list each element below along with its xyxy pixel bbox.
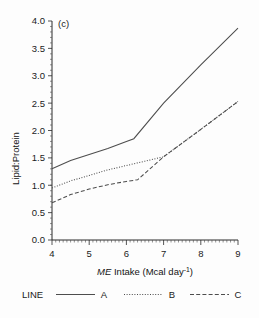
x-tick-label: 9	[235, 248, 240, 259]
x-axis-title-rest: Intake (Mcal day	[111, 266, 184, 277]
plot-svg: 0.00.51.01.52.02.53.03.54.0 456789 (c) L…	[0, 0, 259, 318]
legend-title: LINE	[22, 289, 43, 300]
x-tick-label: 4	[49, 248, 54, 259]
x-tick-label: 8	[198, 248, 203, 259]
y-tick-group: 0.00.51.01.52.02.53.03.54.0	[32, 15, 52, 245]
x-tick-label: 7	[161, 248, 166, 259]
x-tick-group: 456789	[49, 240, 240, 259]
y-tick-label: 2.5	[32, 98, 45, 109]
series-line-C	[52, 101, 238, 202]
figure-panel: 0.00.51.01.52.02.53.03.54.0 456789 (c) L…	[0, 0, 259, 318]
y-tick-label: 3.5	[32, 43, 45, 54]
legend-label-C: C	[235, 289, 242, 300]
y-axis-title: Lipid:Protein	[10, 132, 21, 185]
y-tick-label: 1.0	[32, 180, 45, 191]
y-tick-label: 1.5	[32, 152, 45, 163]
series-line-A	[52, 28, 238, 169]
x-tick-label: 6	[124, 248, 129, 259]
series-line-B	[52, 101, 238, 188]
legend-label-A: A	[101, 289, 108, 300]
series-group	[52, 28, 238, 203]
x-axis-title: ME Intake (Mcal day-1)	[97, 266, 193, 278]
y-tick-label: 0.5	[32, 207, 45, 218]
x-tick-label: 5	[87, 248, 92, 259]
y-tick-label: 3.0	[32, 70, 45, 81]
y-tick-label: 2.0	[32, 125, 45, 136]
line-chart: 0.00.51.01.52.02.53.03.54.0 456789 (c) L…	[0, 0, 259, 318]
legend-label-B: B	[169, 289, 175, 300]
x-axis-title-close: )	[190, 266, 193, 277]
x-axis-title-me: ME	[97, 266, 112, 277]
panel-label: (c)	[58, 18, 69, 29]
y-tick-label: 0.0	[32, 234, 45, 245]
y-tick-label: 4.0	[32, 15, 45, 26]
legend-group: ABC	[56, 289, 242, 300]
